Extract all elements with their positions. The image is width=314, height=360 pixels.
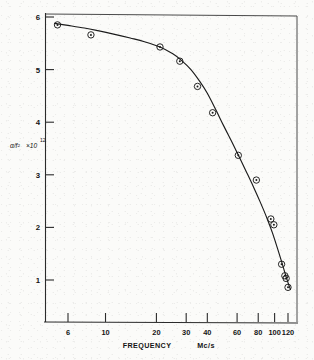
x-axis-units: Mc/s xyxy=(197,341,215,350)
marker-center-dot xyxy=(285,277,287,279)
x-tick-label: 10 xyxy=(101,328,109,337)
marker-center-dot xyxy=(197,85,199,87)
data-point xyxy=(88,32,94,38)
data-point xyxy=(235,152,241,158)
data-point xyxy=(253,177,259,183)
x-tick-label: 40 xyxy=(203,328,211,337)
marker-center-dot xyxy=(179,60,181,62)
data-point xyxy=(209,110,215,116)
marker-center-dot xyxy=(281,263,283,265)
marker-center-dot xyxy=(273,224,275,226)
y-tick-label: 2 xyxy=(36,223,41,232)
y-tick-label: 6 xyxy=(36,13,41,22)
figure-canvas: 123456 6102030406080100120 α/f² ×10 12 F… xyxy=(0,0,314,360)
y-tick-label: 4 xyxy=(36,118,41,127)
x-axis-title: FREQUENCY xyxy=(123,341,172,350)
y-tick-label: 5 xyxy=(36,66,41,75)
y-axis-label-symbol: α/f² xyxy=(10,142,20,149)
data-point xyxy=(157,44,163,50)
marker-center-dot xyxy=(159,46,161,48)
data-point-markers xyxy=(54,22,291,291)
x-tick-label: 100 xyxy=(268,328,280,337)
x-tick-label: 30 xyxy=(182,328,190,337)
x-axis-ticks xyxy=(68,313,288,322)
x-tick-label: 120 xyxy=(282,328,294,337)
y-axis-ticks xyxy=(46,17,55,280)
x-tick-label: 6 xyxy=(66,328,70,337)
x-axis-tick-labels: 6102030406080100120 xyxy=(66,328,294,337)
plot-frame-border xyxy=(45,14,297,322)
data-point xyxy=(271,222,277,228)
y-axis-label-scale: ×10 xyxy=(26,142,38,149)
x-axis-line xyxy=(44,322,298,323)
data-point xyxy=(194,83,200,89)
y-tick-label: 3 xyxy=(36,171,41,180)
marker-center-dot xyxy=(90,34,92,36)
x-tick-label: 80 xyxy=(254,328,262,337)
marker-center-dot xyxy=(237,154,239,156)
x-tick-label: 60 xyxy=(233,328,241,337)
marker-center-dot xyxy=(270,218,272,220)
chart-svg: 123456 6102030406080100120 α/f² ×10 12 F… xyxy=(0,0,314,360)
marker-center-dot xyxy=(212,112,214,114)
data-point xyxy=(54,22,60,28)
marker-center-dot xyxy=(287,286,289,288)
y-axis-label: α/f² ×10 12 xyxy=(10,137,46,149)
y-axis-label-exponent: 12 xyxy=(40,137,46,143)
marker-center-dot xyxy=(255,179,257,181)
x-tick-label: 20 xyxy=(152,328,160,337)
y-tick-label: 1 xyxy=(36,276,41,285)
marker-center-dot xyxy=(56,24,58,26)
fitted-curve xyxy=(55,23,291,289)
